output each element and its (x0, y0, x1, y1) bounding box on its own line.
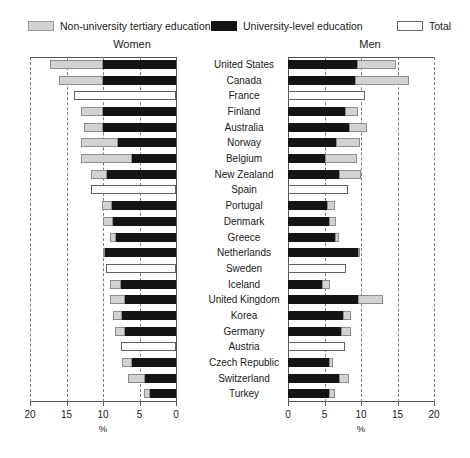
bar-university-men-17 (288, 327, 341, 336)
bar-university-women-21 (150, 389, 176, 398)
bar-university-men-16 (288, 311, 343, 320)
bar-total-men-2 (288, 91, 365, 100)
plot-area-men (288, 57, 434, 402)
legend-swatch-total-icon (397, 21, 423, 31)
bar-university-men-20 (288, 374, 339, 383)
bar-university-men-15 (288, 295, 358, 304)
bar-non-university-men-4 (349, 123, 367, 132)
tick-mark-20 (30, 402, 31, 406)
bar-non-university-women-17 (115, 327, 125, 336)
tick-label-5: 5 (310, 409, 340, 420)
category-label-france: France (196, 90, 292, 101)
tick-mark-5 (325, 402, 326, 406)
bar-non-university-men-17 (341, 327, 351, 336)
bar-non-university-men-11 (335, 233, 339, 242)
bar-university-women-3 (103, 107, 176, 116)
bar-university-men-19 (288, 358, 329, 367)
bar-university-men-9 (288, 201, 327, 210)
bar-university-women-7 (107, 170, 176, 179)
category-label-norway: Norway (196, 137, 292, 148)
bar-non-university-men-19 (329, 358, 333, 367)
category-label-turkey: Turkey (196, 388, 292, 399)
bar-university-men-14 (288, 280, 322, 289)
plot-area-women (30, 57, 176, 402)
bar-university-men-6 (288, 154, 325, 163)
bar-non-university-women-6 (81, 154, 132, 163)
category-label-australia: Australia (196, 122, 292, 133)
bar-non-university-women-9 (102, 201, 112, 210)
category-label-sweden: Sweden (196, 263, 292, 274)
legend-label-total: Total (429, 20, 451, 32)
tick-label-10: 10 (346, 409, 376, 420)
bar-total-men-18 (288, 342, 345, 351)
tick-mark-20 (434, 402, 435, 406)
category-label-denmark: Denmark (196, 216, 292, 227)
bar-total-men-8 (288, 185, 348, 194)
category-label-netherlands: Netherlands (196, 247, 292, 258)
bar-university-women-10 (113, 217, 176, 226)
bar-non-university-women-14 (110, 280, 120, 289)
bar-university-men-3 (288, 107, 345, 116)
bar-university-men-0 (288, 60, 357, 69)
tick-mark-0 (176, 402, 177, 406)
tick-mark-10 (103, 402, 104, 406)
tick-mark-15 (67, 402, 68, 406)
bar-non-university-women-10 (103, 217, 113, 226)
bar-non-university-men-5 (336, 138, 359, 147)
bar-non-university-women-5 (81, 138, 118, 147)
bar-university-women-20 (145, 374, 176, 383)
legend-swatch-university-icon (211, 21, 237, 31)
category-label-greece: Greece (196, 232, 292, 243)
legend-swatch-non-university-icon (28, 21, 54, 31)
category-label-spain: Spain (196, 184, 292, 195)
tick-label-20: 20 (15, 409, 45, 420)
bar-university-women-9 (112, 201, 176, 210)
bar-non-university-men-7 (339, 170, 361, 179)
gridline-0 (176, 57, 177, 402)
bar-university-men-5 (288, 138, 336, 147)
bar-non-university-men-9 (327, 201, 334, 210)
tick-label-15: 15 (383, 409, 413, 420)
legend-item-non-university: Non-university tertiary education (28, 18, 211, 34)
tick-label-10: 10 (88, 409, 118, 420)
bar-university-women-11 (116, 233, 176, 242)
category-label-switzerland: Switzerland (196, 373, 292, 384)
axis-unit-women: % (88, 423, 118, 434)
bar-non-university-women-20 (128, 374, 146, 383)
panel-title-women: Women (62, 38, 202, 50)
category-label-united-states: United States (196, 59, 292, 70)
bar-university-women-1 (103, 76, 176, 85)
chart-legend: Non-university tertiary education Univer… (0, 18, 470, 34)
category-label-finland: Finland (196, 106, 292, 117)
bar-non-university-women-19 (122, 358, 132, 367)
bar-university-women-12 (103, 248, 176, 257)
bar-non-university-women-7 (91, 170, 107, 179)
bar-non-university-women-21 (144, 389, 150, 398)
bar-university-women-15 (125, 295, 176, 304)
bar-university-men-12 (288, 248, 358, 257)
category-label-portugal: Portugal (196, 200, 292, 211)
tick-label-20: 20 (419, 409, 449, 420)
category-label-united-kingdom: United Kingdom (196, 294, 292, 305)
bar-non-university-women-12 (103, 248, 105, 257)
bar-university-men-1 (288, 76, 355, 85)
category-label-iceland: Iceland (196, 279, 292, 290)
bar-university-men-21 (288, 389, 329, 398)
legend-label-non-university: Non-university tertiary education (60, 20, 211, 32)
category-label-belgium: Belgium (196, 153, 292, 164)
bar-total-women-13 (106, 264, 176, 273)
legend-item-university: University-level education (211, 18, 363, 34)
tick-mark-0 (288, 402, 289, 406)
bar-university-women-17 (125, 327, 176, 336)
bar-non-university-men-1 (355, 76, 409, 85)
tick-label-0: 0 (161, 409, 191, 420)
bar-non-university-women-11 (110, 233, 116, 242)
panel-title-men: Men (300, 38, 440, 50)
axis-unit-men: % (346, 423, 376, 434)
bar-non-university-men-0 (357, 60, 396, 69)
gridline-20 (30, 57, 31, 402)
bar-total-women-18 (121, 342, 176, 351)
category-label-austria: Austria (196, 341, 292, 352)
bar-university-women-4 (103, 123, 176, 132)
gridline-15 (67, 57, 68, 402)
